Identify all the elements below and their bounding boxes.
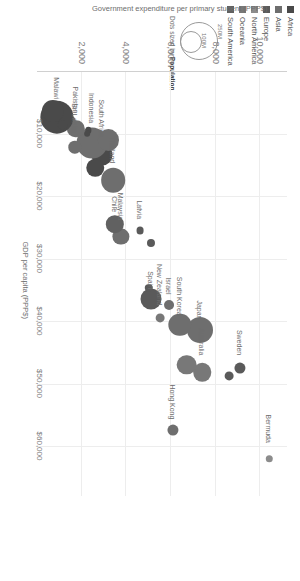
data-point[interactable] (42, 100, 64, 122)
legend-swatch-icon (275, 6, 282, 13)
data-point[interactable] (224, 371, 233, 380)
data-point-label-spain: Spain (147, 271, 154, 289)
data-point-label-sweden: Sweden (236, 330, 243, 355)
rotated-figure-wrapper: AfricaAsiaEuropeNorth AmericaOceaniaSout… (0, 0, 300, 581)
legend-item-label: Oceania (239, 17, 247, 45)
x-axis-tick-label: $60,000 (35, 432, 44, 461)
legend-item-africa[interactable]: Africa (285, 6, 296, 66)
data-point-sweden[interactable] (235, 362, 246, 373)
data-point-label-pakistan: Pakistan (72, 87, 79, 114)
y-axis-tick-label: 4,000 (121, 6, 131, 64)
gridline-vertical (37, 196, 287, 197)
y-axis-line (37, 71, 287, 72)
x-axis-tick-label: $30,000 (35, 244, 44, 273)
data-point-label-israel: Israel (165, 277, 172, 294)
legend-item-label: Asia (275, 17, 283, 32)
x-axis-tick-label: $50,000 (35, 369, 44, 398)
data-point-label-bermuda: Bermuda (265, 415, 272, 443)
x-axis-tick-label: $10,000 (35, 119, 44, 148)
y-axis-title: Government expenditure per primary stude… (92, 4, 268, 13)
legend-item-south-america[interactable]: South America (225, 6, 236, 66)
legend-item-label: Africa (287, 17, 295, 36)
size-legend-circle-small (180, 31, 202, 53)
data-point-label-japan: Japan (196, 300, 203, 319)
y-axis-tick-label: 10,000 (255, 6, 265, 64)
gridline-vertical (37, 384, 287, 385)
data-point-bermuda[interactable] (265, 455, 273, 463)
data-point-label-new-zealand: New Zealand (156, 264, 163, 305)
data-point-label-indonesia: Indonesia (88, 93, 95, 123)
legend-item-oceania[interactable]: Oceania (237, 6, 248, 66)
x-axis-tick-label: $40,000 (35, 307, 44, 336)
data-point-south-korea[interactable] (169, 313, 192, 336)
size-legend-label-small: 100M (201, 33, 207, 48)
data-point-label-south-africa: South Africa (98, 99, 105, 137)
x-axis-tick-label: $20,000 (35, 182, 44, 211)
legend-item-asia[interactable]: Asia (273, 6, 284, 66)
legend-swatch-icon (287, 6, 294, 13)
data-point-label-thailand: Thailand (109, 136, 116, 163)
y-axis-tick-label: 6,000 (166, 6, 176, 64)
gridline-horizontal (259, 71, 260, 496)
data-point-latvia[interactable] (136, 227, 143, 234)
data-point-thailand[interactable] (101, 168, 125, 192)
gridline-horizontal (215, 71, 216, 496)
y-axis-tick-label: 2,000 (77, 6, 87, 64)
gridline-horizontal (125, 71, 126, 496)
data-point-label-latvia: Latvia (136, 200, 143, 219)
data-point[interactable] (147, 239, 155, 247)
gridline-vertical (37, 259, 287, 260)
data-point-label-australia: Australia (198, 328, 205, 355)
legend-item-label: South America (227, 17, 235, 66)
data-point-sri-lanka[interactable] (69, 141, 82, 154)
gridline-vertical (37, 446, 287, 447)
y-axis-tick-label: 8,000 (211, 6, 221, 64)
plot-area: BermudaHong KongSwedenAustraliaNew Zeala… (37, 71, 287, 496)
data-point-label-chile: Chile (111, 196, 118, 212)
data-point-label-south-korea: South Korea (176, 277, 183, 316)
data-point-label-malawi: Malawi (53, 77, 60, 99)
data-point-hong-kong[interactable] (168, 425, 179, 436)
data-point-israel[interactable] (164, 300, 174, 310)
data-point-label-hong-kong: Hong Kong (169, 384, 176, 419)
x-axis-title: GDP per capita (PPP$) (21, 242, 30, 319)
bubble-chart-figure: AfricaAsiaEuropeNorth AmericaOceaniaSout… (0, 0, 300, 581)
